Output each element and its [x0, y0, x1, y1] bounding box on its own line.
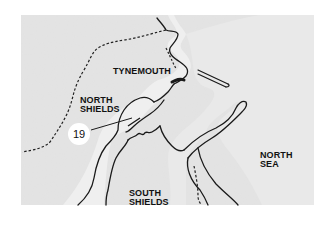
label-tynemouth: TYNEMOUTH [113, 67, 171, 76]
label-north-shields: NORTH SHIELDS [80, 96, 120, 113]
label-south-shields: SOUTH SHIELDS [129, 189, 169, 206]
label-north-sea: NORTH SEA [260, 151, 293, 168]
map: TYNEMOUTH NORTH SHIELDS SOUTH SHIELDS NO… [0, 0, 333, 234]
location-callout-19: 19 [68, 123, 90, 145]
